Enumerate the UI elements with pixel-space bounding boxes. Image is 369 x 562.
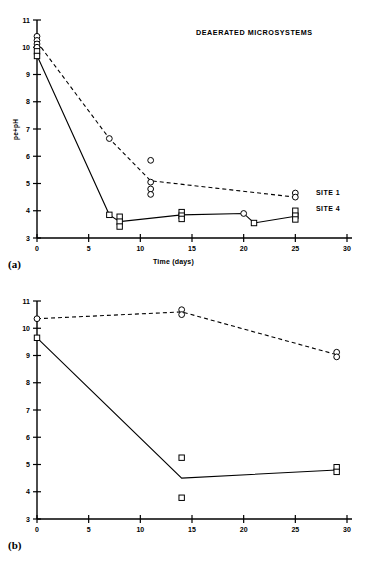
svg-text:11: 11 bbox=[23, 298, 31, 305]
svg-text:20: 20 bbox=[240, 526, 248, 533]
chart-panel-b: 34567891011051015202530 AERATED MICROSYS… bbox=[0, 281, 369, 562]
svg-text:3: 3 bbox=[26, 235, 30, 242]
svg-text:6: 6 bbox=[26, 153, 30, 160]
svg-text:7: 7 bbox=[26, 407, 30, 414]
svg-text:0: 0 bbox=[35, 245, 39, 252]
svg-text:30: 30 bbox=[343, 245, 351, 252]
panel-label-a: (a) bbox=[8, 258, 21, 270]
y-axis-label-a: pe+pH bbox=[12, 119, 19, 140]
svg-text:25: 25 bbox=[291, 526, 299, 533]
svg-text:9: 9 bbox=[26, 352, 30, 359]
figure-page: 34567891011051015202530 DEAERATED MICROS… bbox=[0, 0, 369, 562]
svg-text:10: 10 bbox=[22, 44, 30, 51]
svg-text:7: 7 bbox=[26, 126, 30, 133]
svg-text:11: 11 bbox=[23, 17, 31, 24]
panel-label-b: (b) bbox=[8, 539, 21, 551]
plot-area-b: 34567891011051015202530 bbox=[0, 281, 369, 562]
svg-text:25: 25 bbox=[291, 245, 299, 252]
svg-text:8: 8 bbox=[26, 379, 30, 386]
svg-text:8: 8 bbox=[26, 98, 30, 105]
x-axis-label-a: Time (days) bbox=[153, 258, 194, 265]
svg-text:4: 4 bbox=[26, 488, 30, 495]
svg-text:15: 15 bbox=[188, 526, 196, 533]
series-label-site4-a: SITE 4 bbox=[316, 205, 340, 212]
chart-panel-a: 34567891011051015202530 DEAERATED MICROS… bbox=[0, 0, 369, 281]
svg-text:4: 4 bbox=[26, 207, 30, 214]
svg-text:30: 30 bbox=[343, 526, 351, 533]
svg-text:5: 5 bbox=[87, 245, 91, 252]
svg-text:5: 5 bbox=[26, 461, 30, 468]
svg-text:10: 10 bbox=[22, 325, 30, 332]
series-label-site1-a: SITE 1 bbox=[316, 189, 340, 196]
plot-area-a: 34567891011051015202530 bbox=[0, 0, 369, 281]
svg-text:5: 5 bbox=[87, 526, 91, 533]
svg-text:0: 0 bbox=[35, 526, 39, 533]
svg-text:10: 10 bbox=[136, 245, 144, 252]
svg-text:15: 15 bbox=[188, 245, 196, 252]
svg-text:10: 10 bbox=[136, 526, 144, 533]
svg-text:3: 3 bbox=[26, 516, 30, 523]
chart-title-a: DEAERATED MICROSYSTEMS bbox=[196, 28, 313, 37]
svg-text:20: 20 bbox=[240, 245, 248, 252]
svg-text:6: 6 bbox=[26, 434, 30, 441]
svg-text:9: 9 bbox=[26, 71, 30, 78]
svg-text:5: 5 bbox=[26, 180, 30, 187]
